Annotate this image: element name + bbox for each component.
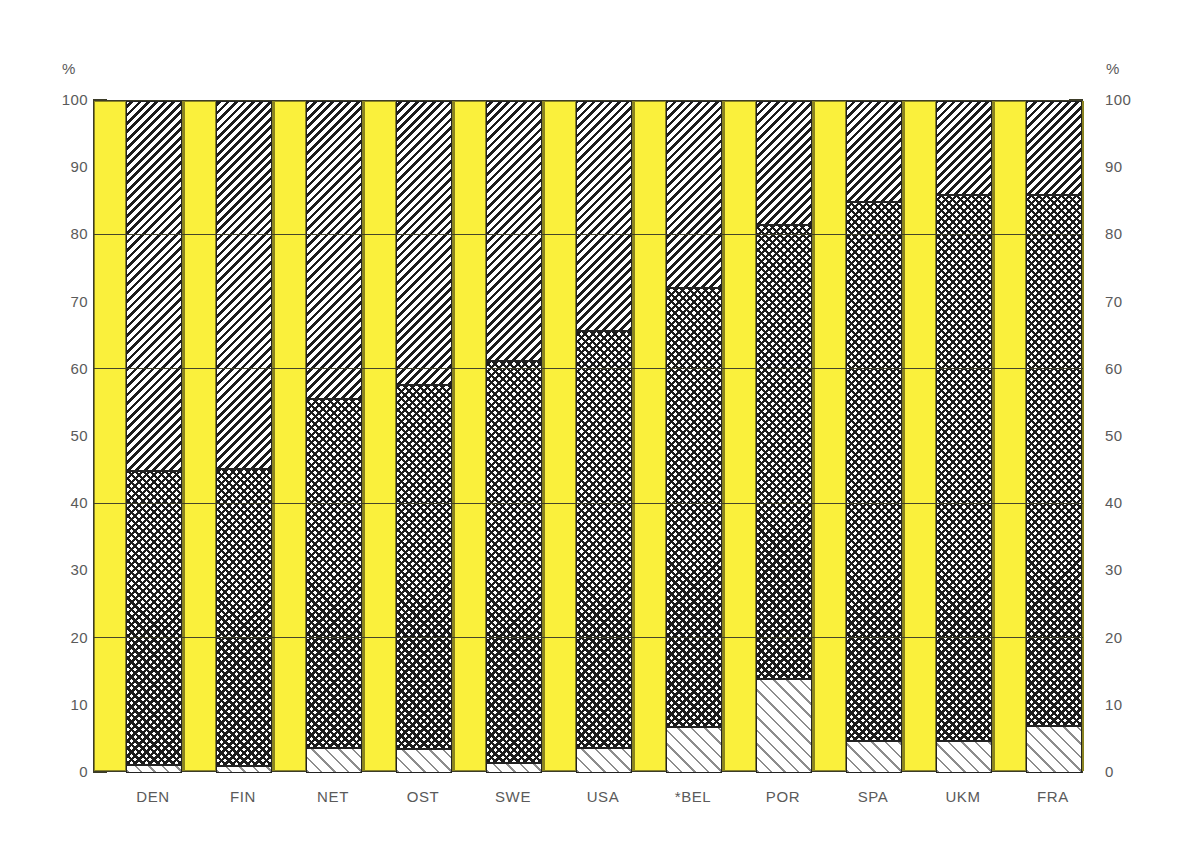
axis-tick-label-left-10: 10 bbox=[71, 697, 89, 712]
bar-segment-top bbox=[396, 101, 452, 385]
axis-tick-label-left-80: 80 bbox=[71, 226, 89, 241]
axis-tick-label-right-20: 20 bbox=[1105, 630, 1123, 645]
bar-segment-middle bbox=[126, 471, 182, 765]
axis-tick-label-left-50: 50 bbox=[71, 428, 89, 443]
bar-segment-top bbox=[666, 101, 722, 288]
yellow-spacer-band bbox=[814, 101, 846, 771]
bar-column-NET bbox=[274, 101, 364, 771]
yellow-spacer-band bbox=[724, 101, 756, 771]
stacked-bar bbox=[756, 101, 812, 771]
yellow-spacer-band bbox=[544, 101, 576, 771]
axis-tick-label-right-90: 90 bbox=[1105, 159, 1123, 174]
category-label-SPA: SPA bbox=[828, 788, 918, 805]
yellow-spacer-band bbox=[904, 101, 936, 771]
bar-segment-top bbox=[846, 101, 902, 202]
left-axis-unit-label: % bbox=[62, 60, 76, 77]
bar-segment-bottom bbox=[756, 679, 812, 773]
bar-segment-bottom bbox=[846, 741, 902, 773]
axis-tick-label-right-40: 40 bbox=[1105, 495, 1123, 510]
axis-tick-label-right-30: 30 bbox=[1105, 562, 1123, 577]
category-label-OST: OST bbox=[378, 788, 468, 805]
bar-column-FIN bbox=[184, 101, 274, 771]
yellow-spacer-band bbox=[634, 101, 666, 771]
category-label-star-BEL: *BEL bbox=[648, 788, 738, 805]
gridline-80 bbox=[93, 234, 1083, 235]
axis-tick-label-right-10: 10 bbox=[1105, 697, 1123, 712]
axis-tick-label-right-50: 50 bbox=[1105, 428, 1123, 443]
stacked-bar bbox=[216, 101, 272, 771]
yellow-spacer-band bbox=[274, 101, 306, 771]
gridline-40 bbox=[93, 503, 1083, 504]
yellow-spacer-band bbox=[454, 101, 486, 771]
bar-segment-middle bbox=[576, 331, 632, 748]
yellow-spacer-band bbox=[994, 101, 1026, 771]
bar-column-FRA bbox=[994, 101, 1084, 771]
axis-tick-label-left-30: 30 bbox=[71, 562, 89, 577]
stacked-bar bbox=[486, 101, 542, 771]
bar-segment-bottom bbox=[396, 749, 452, 773]
category-label-POR: POR bbox=[738, 788, 828, 805]
stacked-bar bbox=[396, 101, 452, 771]
bar-column-USA bbox=[544, 101, 634, 771]
axis-tick-label-left-60: 60 bbox=[71, 361, 89, 376]
bar-segment-bottom bbox=[216, 766, 272, 773]
stacked-bar bbox=[126, 101, 182, 771]
bar-segment-middle bbox=[756, 225, 812, 679]
axis-tick-label-right-70: 70 bbox=[1105, 294, 1123, 309]
category-label-SWE: SWE bbox=[468, 788, 558, 805]
bar-segment-bottom bbox=[1026, 726, 1082, 773]
bar-segment-top bbox=[1026, 101, 1082, 195]
bar-segment-top bbox=[576, 101, 632, 331]
axis-tick-label-left-40: 40 bbox=[71, 495, 89, 510]
yellow-spacer-band bbox=[184, 101, 216, 771]
axis-tick-label-left-0: 0 bbox=[79, 764, 88, 779]
bar-segment-middle bbox=[936, 195, 992, 741]
axis-tick-label-left-20: 20 bbox=[71, 630, 89, 645]
category-label-FRA: FRA bbox=[1008, 788, 1098, 805]
yellow-spacer-band bbox=[94, 101, 126, 771]
stacked-bar bbox=[576, 101, 632, 771]
bar-segment-bottom bbox=[666, 727, 722, 773]
bar-segment-top bbox=[216, 101, 272, 469]
bar-segment-middle bbox=[306, 399, 362, 748]
bar-segment-middle bbox=[396, 385, 452, 749]
axis-tick-label-right-0: 0 bbox=[1105, 764, 1114, 779]
bar-segment-top bbox=[486, 101, 542, 361]
plot-area bbox=[93, 100, 1083, 772]
right-axis-unit-label: % bbox=[1106, 60, 1120, 77]
bar-column-DEN bbox=[94, 101, 184, 771]
category-label-USA: USA bbox=[558, 788, 648, 805]
bar-segment-middle bbox=[216, 469, 272, 766]
bar-segment-top bbox=[306, 101, 362, 399]
category-label-NET: NET bbox=[288, 788, 378, 805]
gridline-60 bbox=[93, 368, 1083, 369]
bar-segment-bottom bbox=[576, 748, 632, 773]
category-label-FIN: FIN bbox=[198, 788, 288, 805]
stacked-bar bbox=[666, 101, 722, 771]
axis-tick-label-right-100: 100 bbox=[1105, 92, 1131, 107]
bar-segment-bottom bbox=[306, 748, 362, 773]
stacked-bar bbox=[846, 101, 902, 771]
stacked-bar bbox=[1026, 101, 1082, 771]
bar-segment-bottom bbox=[486, 763, 542, 773]
bar-column-SWE bbox=[454, 101, 544, 771]
bar-column-star-BEL bbox=[634, 101, 724, 771]
bar-segment-middle bbox=[846, 202, 902, 741]
axis-tick-label-left-70: 70 bbox=[71, 294, 89, 309]
bar-segment-top bbox=[756, 101, 812, 225]
stacked-bar bbox=[306, 101, 362, 771]
bar-segment-top bbox=[126, 101, 182, 471]
bar-segment-top bbox=[936, 101, 992, 195]
axis-tick-label-left-90: 90 bbox=[71, 159, 89, 174]
yellow-spacer-band-trailing bbox=[1082, 101, 1084, 771]
bar-column-POR bbox=[724, 101, 814, 771]
axis-tick-label-right-80: 80 bbox=[1105, 226, 1123, 241]
bar-segment-bottom bbox=[936, 741, 992, 773]
bar-segment-bottom bbox=[126, 765, 182, 773]
bar-column-UKM bbox=[904, 101, 994, 771]
bar-column-OST bbox=[364, 101, 454, 771]
bar-column-SPA bbox=[814, 101, 904, 771]
axis-tick-label-right-60: 60 bbox=[1105, 361, 1123, 376]
stacked-bar-chart: % % 100100909080807070606050504040303020… bbox=[0, 0, 1197, 859]
bar-segment-middle bbox=[1026, 195, 1082, 726]
